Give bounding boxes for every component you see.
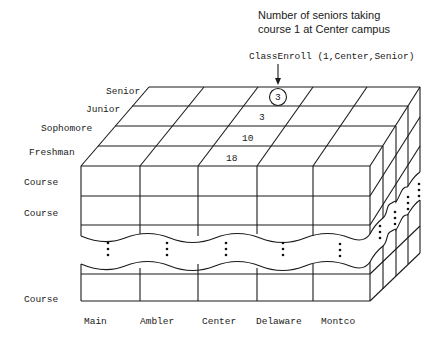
arrow-down-icon <box>275 64 281 85</box>
column-label-main: Main <box>84 316 107 327</box>
column-label-center: Center <box>202 316 236 327</box>
row-label-course-2: Course <box>24 208 59 219</box>
annotation-formula: ClassEnroll (1,Center,Senior) <box>249 51 414 62</box>
cell-sophomore-center: 10 <box>242 133 254 144</box>
depth-label-junior: Junior <box>86 104 120 115</box>
cube-front-face-upper <box>81 166 370 243</box>
annotation-line-1: Number of seniors taking <box>258 9 380 21</box>
cube-right-face <box>370 87 420 301</box>
cell-senior-center: 3 <box>275 92 281 103</box>
row-label-course-n: Course <box>24 294 59 305</box>
cube-front-face-lower <box>81 262 370 302</box>
cell-junior-center: 3 <box>259 112 265 123</box>
depth-label-freshman: Freshman <box>29 147 75 158</box>
depth-label-senior: Senior <box>106 86 140 97</box>
annotation-line-2: course 1 at Center campus <box>258 23 391 35</box>
row-label-course-1: Course <box>24 177 59 188</box>
column-label-montco: Montco <box>321 316 356 327</box>
cube-top-face <box>81 87 420 166</box>
depth-label-sophomore: Sophomore <box>41 123 93 134</box>
cell-freshman-center: 18 <box>226 153 238 164</box>
column-label-ambler: Ambler <box>140 316 174 327</box>
olap-data-cube-diagram: Number of seniors taking course 1 at Cen… <box>0 0 444 341</box>
column-label-delaware: Delaware <box>256 316 302 327</box>
